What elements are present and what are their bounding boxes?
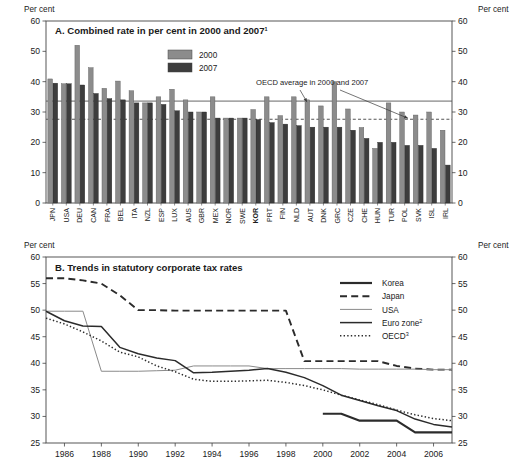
panel-a-bar-2000[interactable] [346,109,351,203]
panel-a-category-label: SWE [239,208,246,224]
panel-b-legend-label: Korea [382,279,404,288]
panel-a-bar-2007[interactable] [229,118,234,203]
panel-b-legend-label: Japan [382,292,405,301]
panel-a-bar-2000[interactable] [440,130,445,203]
panel-a-category-label: CZE [347,208,354,222]
panel-b-xtick-label: 2000 [313,449,332,459]
panel-a-bar-2000[interactable] [183,100,188,203]
panel-a-category-label: SVK [415,208,422,222]
panel-a-bar-2000[interactable] [75,45,80,203]
panel-a-category-label: BEL [117,208,124,221]
panel-a-category-label: FRA [104,208,111,222]
panel-a-legend-swatch [168,63,192,72]
panel-b-xtick-label: 2006 [424,449,443,459]
panel-a-category-label: JPN [49,208,56,221]
panel-b-xtick-label: 1986 [55,449,74,459]
panel-a-bar-2007[interactable] [445,165,450,203]
panel-a-bar-2007[interactable] [215,118,220,203]
panel-a-bar-2000[interactable] [224,118,229,203]
panel-a-bar-2000[interactable] [386,103,391,203]
panel-b-legend-label: OECD3 [382,331,409,341]
panel-a-bar-2000[interactable] [291,97,296,203]
panel-a-bar-2007[interactable] [107,99,112,203]
panel-a-bar-2007[interactable] [188,112,193,203]
panel-a-bar-2007[interactable] [94,94,99,204]
panel-a-ytick-label-right: 20 [458,137,468,147]
panel-a-bar-2000[interactable] [251,110,256,203]
panel-a-bar-2000[interactable] [102,88,107,203]
panel-a-bar-2000[interactable] [373,148,378,203]
panel-a-bar-2000[interactable] [143,103,148,203]
panel-b-ytick-label-right: 45 [458,332,468,342]
panel-a-bar-2000[interactable] [88,68,93,203]
panel-a-ytick-label-right: 0 [458,198,463,208]
figure-container: 00101020203030404050506060Per centPer ce… [0,0,522,476]
panel-a-bar-2007[interactable] [297,126,302,203]
panel-a-bar-2007[interactable] [270,123,275,203]
panel-b-ytick-label-right: 55 [458,279,468,289]
panel-a-bar-2007[interactable] [175,111,180,203]
panel-b-ytick-label-right: 30 [458,411,468,421]
panel-a-bar-2000[interactable] [210,97,215,203]
panel-a-bar-2000[interactable] [129,91,134,203]
panel-a-ytick-label-left: 0 [35,198,40,208]
panel-a-bar-2007[interactable] [161,104,166,203]
panel-a-bar-2007[interactable] [53,83,58,203]
panel-a-bar-2000[interactable] [413,115,418,203]
panel-a-bar-2000[interactable] [427,112,432,203]
panel-a-category-label: TUR [388,208,395,222]
panel-b-xtick-label: 1996 [239,449,258,459]
panel-a-bar-2000[interactable] [170,89,175,203]
panel-a-bar-2007[interactable] [405,145,410,203]
panel-a-bar-2000[interactable] [116,81,121,203]
panel-a-bar-2007[interactable] [242,118,247,203]
panel-a-bar-2007[interactable] [283,124,288,203]
panel-a-bar-2007[interactable] [418,145,423,203]
panel-a-category-label: CHE [361,208,368,223]
panel-a-category-label: ESP [158,208,165,222]
panel-a-bar-2007[interactable] [432,148,437,203]
panel-a-bar-2007[interactable] [256,120,261,203]
panel-a-bar-2007[interactable] [378,142,383,203]
panel-a-bar-2000[interactable] [48,79,53,203]
panel-a-bar-2000[interactable] [305,100,310,203]
panel-b-xtick-label: 1990 [129,449,148,459]
panel-a-category-label: ISL [428,208,435,219]
panel-a-bar-2007[interactable] [364,138,369,203]
panel-a-bar-2007[interactable] [67,84,72,203]
panel-a-plot-frame [46,21,452,203]
panel-a-bar-2007[interactable] [202,112,207,203]
panel-a-bar-2000[interactable] [332,82,337,203]
panel-b-xtick-label: 2002 [350,449,369,459]
panel-a: 00101020203030404050506060Per centPer ce… [24,5,509,224]
panel-b-ytick-label-left: 40 [30,358,40,368]
panel-a-category-label: IRL [442,208,449,219]
panel-a-bar-2007[interactable] [337,127,342,203]
panel-a-bar-2007[interactable] [391,142,396,203]
panel-a-bar-2007[interactable] [351,130,356,203]
panel-a-bar-2000[interactable] [156,97,161,203]
panel-a-category-label: NOR [225,208,232,224]
panel-a-bar-2007[interactable] [148,103,153,203]
panel-a-bar-2007[interactable] [310,127,315,203]
panel-a-category-label: AUS [185,208,192,223]
panel-a-bar-2000[interactable] [264,97,269,203]
panel-a-category-label: PRT [266,207,273,222]
panel-b-unit-right: Per cent [478,241,509,250]
panel-a-bar-2000[interactable] [61,84,66,203]
panel-a-bar-2000[interactable] [400,112,405,203]
panel-a-bar-2000[interactable] [237,118,242,203]
panel-b: 25253030353540404545505055556060Per cent… [24,241,509,459]
panel-a-bar-2007[interactable] [121,100,126,203]
panel-a-title: A. Combined rate in per cent in 2000 and… [55,25,268,36]
panel-a-bar-2000[interactable] [359,127,364,203]
panel-b-unit-left: Per cent [24,241,55,250]
panel-a-bar-2007[interactable] [134,103,139,203]
panel-a-category-label: NZL [144,208,151,221]
panel-a-bar-2000[interactable] [319,106,324,203]
panel-a-bar-2000[interactable] [278,116,283,203]
panel-a-ytick-label-left: 60 [30,16,40,26]
panel-a-bar-2007[interactable] [324,127,329,203]
panel-a-bar-2000[interactable] [197,112,202,203]
panel-a-bar-2007[interactable] [80,85,85,203]
